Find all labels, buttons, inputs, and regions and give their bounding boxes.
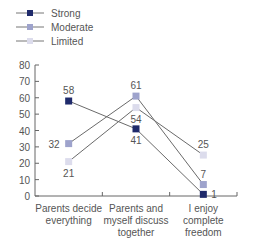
- x-category-label: Parents and: [109, 203, 163, 214]
- data-label: 25: [198, 139, 210, 150]
- legend-label: Strong: [51, 8, 80, 19]
- data-label: 58: [63, 85, 75, 96]
- x-category-label: everything: [46, 215, 92, 226]
- x-category-label: complete: [183, 215, 224, 226]
- y-tick-label: 20: [19, 158, 31, 169]
- y-tick-label: 10: [19, 175, 31, 186]
- data-point-marker-icon: [65, 158, 72, 165]
- x-category-label: Parents decide: [35, 203, 102, 214]
- data-label: 7: [201, 169, 207, 180]
- y-tick-label: 0: [24, 191, 30, 202]
- y-tick-label: 40: [19, 126, 31, 137]
- data-label: 41: [130, 135, 142, 146]
- x-category-label: together: [118, 227, 155, 238]
- data-point-marker-icon: [200, 191, 207, 198]
- data-point-marker-icon: [200, 181, 207, 188]
- y-tick-label: 30: [19, 142, 31, 153]
- data-label: 1: [211, 189, 217, 200]
- line-chart: StrongModerateLimited01020304050607080Pa…: [0, 0, 253, 245]
- data-point-marker-icon: [65, 140, 72, 147]
- data-point-marker-icon: [200, 152, 207, 159]
- data-point-marker-icon: [133, 104, 140, 111]
- legend-label: Limited: [51, 36, 83, 47]
- legend-marker-icon: [27, 10, 33, 16]
- legend-marker-icon: [27, 38, 33, 44]
- x-category-label: freedom: [185, 227, 222, 238]
- data-label: 32: [49, 139, 61, 150]
- legend-label: Moderate: [51, 22, 94, 33]
- y-tick-label: 60: [19, 93, 31, 104]
- data-label: 61: [130, 80, 142, 91]
- legend-marker-icon: [27, 24, 33, 30]
- data-point-marker-icon: [133, 93, 140, 100]
- y-tick-label: 50: [19, 109, 31, 120]
- data-label: 21: [63, 168, 75, 179]
- y-tick-label: 80: [19, 60, 31, 71]
- x-category-label: I enjoy: [189, 203, 218, 214]
- x-category-label: myself discuss: [103, 215, 168, 226]
- y-tick-label: 70: [19, 76, 31, 87]
- data-point-marker-icon: [65, 98, 72, 105]
- data-point-marker-icon: [133, 125, 140, 132]
- data-label: 54: [130, 114, 142, 125]
